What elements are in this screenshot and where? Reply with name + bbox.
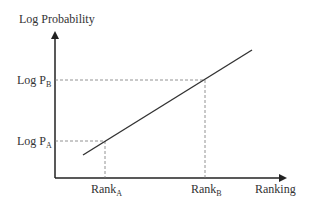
- tick-log-pb: Log PB: [17, 73, 51, 89]
- probability-line: [83, 50, 252, 155]
- diagram-canvas: Log Probability Ranking Log PB Log PA Ra…: [0, 0, 310, 207]
- tick-rank-a: RankA: [91, 182, 122, 198]
- x-axis-label: Ranking: [255, 182, 296, 196]
- y-axis-label: Log Probability: [19, 12, 95, 26]
- tick-log-pa: Log PA: [17, 134, 52, 150]
- tick-rank-b: RankB: [191, 182, 222, 198]
